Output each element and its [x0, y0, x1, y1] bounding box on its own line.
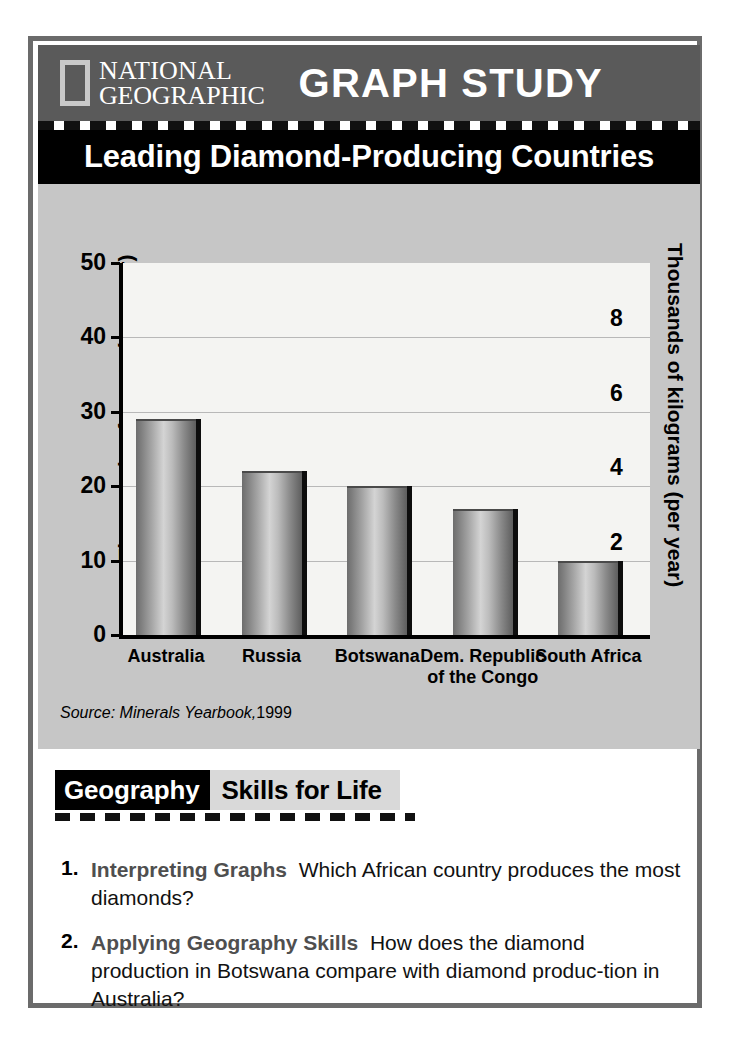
secondary-y-axis-tick-label: 2 [610, 529, 623, 556]
x-axis-category-label: South Africa [533, 646, 643, 667]
chart-title-band: Leading Diamond-Producing Countries [38, 130, 700, 184]
y-axis-tick-label: 0 [93, 621, 106, 648]
x-axis-category-label: Russia [217, 646, 327, 667]
x-axis-category-label: Dem. Republic of the Congo [413, 646, 553, 687]
ng-wordmark: NATIONAL GEOGRAPHIC [99, 58, 265, 108]
header-dashed-divider [38, 121, 700, 130]
skills-label-geography: Geography [55, 770, 210, 810]
bar-top-cap [242, 471, 302, 473]
question-lead-in: Applying Geography Skills [91, 931, 358, 954]
y-axis-tick-label: 30 [80, 398, 106, 425]
y-axis-tick-label: 20 [80, 472, 106, 499]
skills-dashed-underline [55, 813, 415, 821]
gridline [122, 337, 650, 338]
ng-yellow-rectangle-icon [60, 60, 90, 106]
bar-top-cap [558, 561, 618, 563]
bar [558, 561, 618, 635]
skills-band-row: Geography Skills for Life [55, 770, 455, 810]
y-axis-spine [119, 263, 123, 635]
page-frame: NATIONAL GEOGRAPHIC GRAPH STUDY Leading … [28, 36, 702, 1008]
bar-top-cap [453, 509, 513, 511]
question-item: 1.Interpreting Graphs Which African coun… [61, 856, 681, 912]
bar-top-cap [347, 486, 407, 488]
secondary-y-axis-tick-label: 6 [610, 380, 623, 407]
skills-band: Geography Skills for Life [55, 770, 455, 821]
question-number: 2. [61, 929, 91, 1013]
ng-wordmark-line2: GEOGRAPHIC [99, 83, 265, 108]
gridline [122, 412, 650, 413]
question-number: 1. [61, 856, 91, 912]
secondary-y-axis-tick-label: 4 [610, 454, 623, 481]
y-axis-title-right: Thousands of kilograms (per year) [663, 243, 687, 573]
question-lead-in: Interpreting Graphs [91, 858, 287, 881]
bar [453, 509, 513, 635]
skills-label-for-life: Skills for Life [210, 770, 399, 810]
bar [242, 471, 302, 635]
question-item: 2.Applying Geography Skills How does the… [61, 929, 681, 1013]
national-geographic-header: NATIONAL GEOGRAPHIC GRAPH STUDY [38, 45, 700, 121]
bar [136, 419, 196, 635]
chart-panel: Thousands of carats (per year) Thousands… [38, 184, 700, 749]
bar [347, 486, 407, 635]
y-axis-tick-label: 40 [80, 323, 106, 350]
national-geographic-logo: NATIONAL GEOGRAPHIC [60, 58, 265, 108]
y-axis-tick-label: 50 [80, 249, 106, 276]
secondary-y-axis-tick-label: 8 [610, 306, 623, 333]
graph-study-title: GRAPH STUDY [299, 61, 603, 106]
chart-title: Leading Diamond-Producing Countries [84, 139, 654, 175]
bar-top-cap [136, 419, 196, 421]
y-axis-tick-label: 10 [80, 547, 106, 574]
question-body: Applying Geography Skills How does the d… [91, 929, 681, 1013]
ng-wordmark-line1: NATIONAL [99, 58, 265, 83]
x-axis-spine [119, 635, 650, 639]
source-note: Source: Minerals Yearbook,1999 [60, 704, 292, 722]
x-axis-category-label: Australia [111, 646, 221, 667]
question-body: Interpreting Graphs Which African countr… [91, 856, 681, 912]
questions-list: 1.Interpreting Graphs Which African coun… [61, 856, 681, 1030]
source-note-text: Source: Minerals Yearbook, [60, 704, 256, 721]
plot-area-wrapper: 01020304050 2468 AustraliaRussiaBotswana… [122, 263, 650, 635]
source-note-year: 1999 [256, 704, 292, 721]
